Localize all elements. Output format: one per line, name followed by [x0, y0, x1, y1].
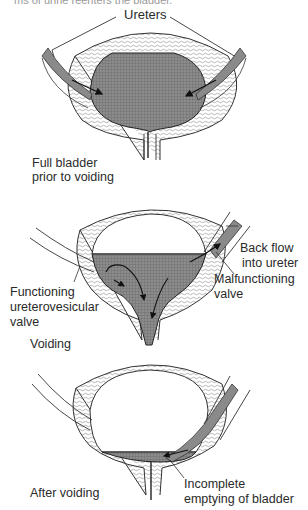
label-malfunctioning: Malfunctioning	[214, 272, 295, 286]
label-incomplete: Incomplete	[184, 477, 245, 491]
label-prior-to-voiding: prior to voiding	[32, 170, 114, 184]
label-voiding: Voiding	[30, 337, 71, 351]
label-malfunctioning-valve: valve	[214, 287, 243, 301]
label-functioning: Functioning	[10, 285, 75, 299]
bladder-reflux-diagram: ms of urine reenters the bladder.	[0, 0, 308, 510]
panel-full-bladder	[42, 17, 246, 160]
label-ureterovesicular: ureterovesicular	[10, 300, 99, 314]
label-after-voiding: After voiding	[30, 486, 99, 500]
label-emptying-of-bladder: emptying of bladder	[184, 492, 294, 506]
label-back-flow: Back flow	[240, 241, 294, 255]
label-full-bladder: Full bladder	[32, 156, 97, 170]
diagram-illustration	[0, 0, 308, 510]
label-into-ureter: into ureter	[242, 256, 298, 270]
label-ureters: Ureters	[124, 8, 167, 22]
label-valve: valve	[10, 315, 39, 329]
